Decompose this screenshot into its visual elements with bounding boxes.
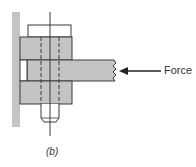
loaded-bar — [27, 60, 116, 81]
gap — [20, 60, 27, 81]
upper-plate — [20, 37, 72, 60]
lower-plate — [20, 81, 72, 104]
bolted-joint-diagram — [0, 0, 196, 167]
force-label: Force — [164, 64, 192, 76]
figure-caption: (b) — [46, 146, 58, 157]
wall-plate — [12, 12, 20, 127]
force-arrow-head-icon — [119, 67, 128, 75]
